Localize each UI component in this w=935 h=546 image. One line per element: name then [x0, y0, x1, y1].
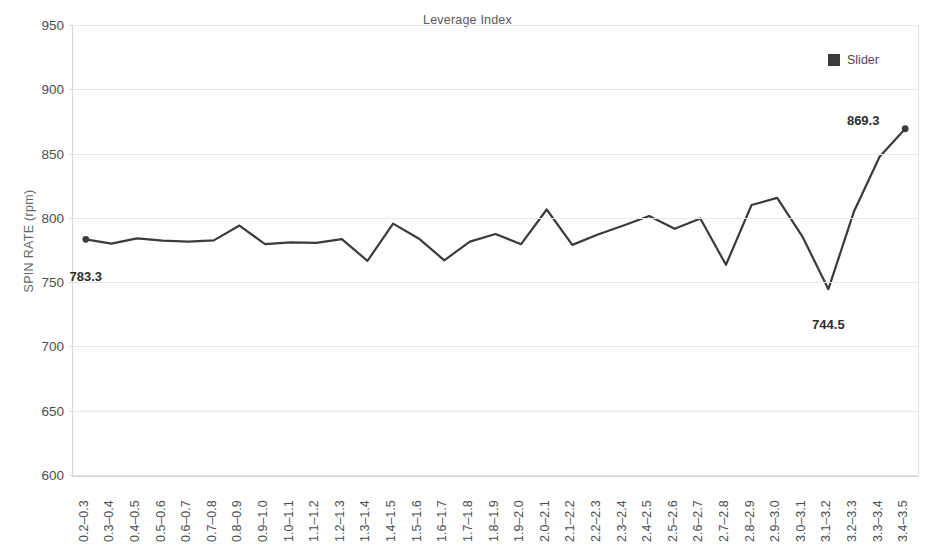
y-tick-label: 750	[24, 275, 64, 290]
x-tick-label: 0.9–1.0	[256, 500, 270, 542]
y-tick-label: 700	[24, 339, 64, 354]
x-tick-label: 0.4–0.5	[128, 500, 142, 542]
x-tick-label: 1.6–1.7	[435, 500, 449, 542]
x-tick-label: 2.8–2.9	[743, 500, 757, 542]
y-tick-label: 600	[24, 468, 64, 483]
x-tick-label: 3.2–3.3	[845, 500, 859, 542]
x-tick-label: 3.3–3.4	[871, 500, 885, 542]
x-tick-label: 2.3–2.4	[615, 500, 629, 542]
y-tick-label: 950	[24, 18, 64, 33]
x-tick-label: 2.0–2.1	[538, 500, 552, 542]
y-tick-label: 650	[24, 403, 64, 418]
x-tick-label: 1.0–1.1	[282, 500, 296, 542]
gridline	[73, 475, 918, 476]
y-tick-label: 800	[24, 210, 64, 225]
x-tick-label: 2.7–2.8	[717, 500, 731, 542]
x-tick-label: 0.2–0.3	[77, 500, 91, 542]
x-tick-label: 0.3–0.4	[102, 500, 116, 542]
plot-right-border	[918, 25, 919, 477]
x-tick-label: 0.7–0.8	[205, 500, 219, 542]
data-point-label: 744.5	[812, 317, 845, 332]
x-tick-label: 0.6–0.7	[179, 500, 193, 542]
x-tick-label: 1.5–1.6	[410, 500, 424, 542]
x-tick-label: 2.1–2.2	[563, 500, 577, 542]
x-tick-label: 2.6–2.7	[691, 500, 705, 542]
x-axis-tick-labels: 0.2–0.30.3–0.40.4–0.50.5–0.60.6–0.70.7–0…	[73, 480, 919, 546]
y-axis-tick-labels: 600650700750800850900950	[20, 0, 64, 546]
x-tick-label: 0.5–0.6	[154, 500, 168, 542]
leverage-index-chart: Leverage Index Slider SPIN RATE (rpm) 60…	[0, 0, 935, 546]
data-point-label: 869.3	[847, 113, 880, 128]
x-axis-line	[73, 476, 919, 477]
x-tick-label: 2.9–3.0	[768, 500, 782, 542]
x-tick-label: 2.5–2.6	[666, 500, 680, 542]
x-tick-label: 3.4–3.5	[896, 500, 910, 542]
x-tick-label: 1.7–1.8	[461, 500, 475, 542]
y-tick-mark	[69, 475, 73, 476]
y-tick-label: 850	[24, 146, 64, 161]
x-tick-label: 1.4–1.5	[384, 500, 398, 542]
x-tick-label: 1.3–1.4	[358, 500, 372, 542]
x-tick-label: 2.2–2.3	[589, 500, 603, 542]
x-tick-label: 1.2–1.3	[333, 500, 347, 542]
y-tick-label: 900	[24, 82, 64, 97]
x-tick-label: 1.1–1.2	[307, 500, 321, 542]
x-tick-label: 0.8–0.9	[230, 500, 244, 542]
x-tick-label: 3.0–3.1	[794, 500, 808, 542]
x-tick-label: 1.9–2.0	[512, 500, 526, 542]
x-tick-label: 1.8–1.9	[487, 500, 501, 542]
data-point-label: 783.3	[70, 269, 103, 284]
x-tick-label: 2.4–2.5	[640, 500, 654, 542]
data-point-labels: 783.3744.5869.3	[73, 25, 918, 475]
x-tick-label: 3.1–3.2	[819, 500, 833, 542]
